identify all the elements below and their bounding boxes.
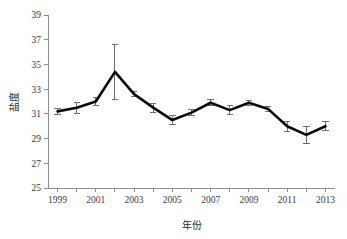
chart-canvas: 2527293133353739199920012003200520072009… [0,0,347,239]
x-axis-tick-label: 2011 [278,195,297,205]
y-axis-tick-label: 35 [32,60,42,70]
error-bars-group [54,45,328,144]
y-axis-tick-label: 31 [32,109,42,119]
y-axis-tick-label: 25 [32,183,42,193]
x-axis-tick-label: 2005 [163,195,182,205]
y-axis-tick-label: 33 [32,85,42,95]
x-axis-title: 年份 [182,219,202,231]
x-axis-tick-label: 1999 [48,195,67,205]
salinity-year-line-chart: 2527293133353739199920012003200520072009… [0,0,347,239]
x-axis-tick-label: 2001 [86,195,105,205]
x-axis-tick-label: 2013 [316,195,335,205]
salinity-series-line [58,72,326,135]
x-axis-tick-label: 2003 [125,195,144,205]
y-axis-tick-label: 27 [32,159,42,169]
x-axis-tick-label: 2009 [239,195,258,205]
y-axis-tick-label: 37 [32,35,42,45]
y-axis-title: 盐度 [8,92,20,112]
y-axis-tick-label: 29 [32,134,42,144]
x-axis-tick-label: 2007 [201,195,220,205]
y-axis-tick-label: 39 [32,10,42,20]
